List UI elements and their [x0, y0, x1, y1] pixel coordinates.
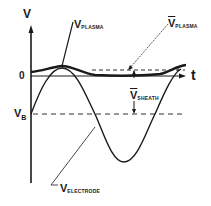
plasma-potential-label: VPLASMA [74, 15, 104, 31]
sheath-arrow-down-icon [132, 109, 136, 114]
y-axis-arrow-icon [29, 25, 34, 33]
mean-plasma-potential-label: VPLASMA [168, 14, 198, 30]
plasma-potential-diagram: V t 0 VB VPLASMA VPLASMA VSHEATH VELECTR… [0, 0, 211, 206]
electrode-label-leader [51, 127, 95, 185]
electrode-voltage-label: VELECTRODE [60, 179, 100, 195]
plasma-label-leader [62, 22, 73, 66]
bias-voltage-label: VB [14, 104, 27, 120]
mean-plasma-label-leader [129, 24, 168, 69]
x-axis-label: t [191, 68, 196, 82]
x-axis-arrow-icon [179, 74, 186, 79]
y-axis-label: V [23, 8, 31, 20]
electrode-voltage-curve [31, 68, 181, 162]
y-axis [29, 25, 34, 183]
zero-label: 0 [19, 71, 25, 81]
diagram-canvas [0, 0, 211, 206]
mean-sheath-voltage-label: VSHEATH [130, 86, 159, 102]
sheath-arrow-up-icon [132, 70, 136, 75]
